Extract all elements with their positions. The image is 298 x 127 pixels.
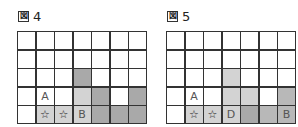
grid-cell <box>167 69 184 86</box>
cell-label: D <box>227 108 235 121</box>
star-icon: ☆ <box>40 108 50 121</box>
grid-cell <box>186 51 203 68</box>
cell-label: B <box>78 108 86 121</box>
grid-cell <box>55 69 72 86</box>
grid-cell <box>111 32 128 49</box>
star-icon: ☆ <box>189 108 199 121</box>
grid-cell <box>223 51 240 68</box>
grid: A☆☆DB <box>166 31 296 124</box>
grid-cell <box>241 32 258 49</box>
grid-cell <box>92 106 109 123</box>
grid-cell <box>18 69 35 86</box>
cell-a: A <box>37 88 54 105</box>
grid-cell <box>18 51 35 68</box>
grid-cell <box>111 88 128 105</box>
star-cell: ☆ <box>37 106 54 123</box>
grid-cell <box>92 51 109 68</box>
grid-cell <box>204 51 221 68</box>
grid-cell <box>18 88 35 105</box>
grid: A☆☆B <box>17 31 147 124</box>
grid-cell <box>223 88 240 105</box>
cell-b: B <box>278 106 295 123</box>
grid-cell <box>74 88 91 105</box>
grid-cell <box>167 51 184 68</box>
grid-cell <box>260 88 277 105</box>
grid-cell <box>260 69 277 86</box>
grid-cell <box>129 69 146 86</box>
grid-cell <box>92 88 109 105</box>
star-cell: ☆ <box>55 106 72 123</box>
figure-mark-icon: 図 <box>167 11 178 22</box>
grid-cell <box>223 32 240 49</box>
grid-cell <box>74 51 91 68</box>
grid-cell <box>241 69 258 86</box>
grid-cell <box>167 106 184 123</box>
grid-cell <box>186 32 203 49</box>
grid-cell <box>111 69 128 86</box>
grid-cell <box>111 51 128 68</box>
grid-cell <box>92 32 109 49</box>
star-cell: ☆ <box>204 106 221 123</box>
cell-label: A <box>41 90 49 103</box>
grid-cell <box>55 32 72 49</box>
grid-cell <box>186 69 203 86</box>
grid-cell <box>278 32 295 49</box>
grid-cell <box>92 69 109 86</box>
grid-cell <box>129 32 146 49</box>
star-icon: ☆ <box>59 108 69 121</box>
grid-cell <box>260 51 277 68</box>
grid-cell <box>18 106 35 123</box>
grid-cell <box>260 106 277 123</box>
cell-label: A <box>190 90 198 103</box>
figure-title: 図 5 <box>167 9 190 24</box>
grid-cell <box>74 32 91 49</box>
grid-cell <box>167 88 184 105</box>
cell-a: A <box>186 88 203 105</box>
grid-cell <box>74 69 91 86</box>
cell-d: D <box>223 106 240 123</box>
grid-cell <box>241 51 258 68</box>
grid-cell <box>18 32 35 49</box>
grid-cell <box>129 88 146 105</box>
grid-cell <box>37 69 54 86</box>
grid-cell <box>37 32 54 49</box>
grid-cell <box>278 69 295 86</box>
figure-number: 5 <box>182 9 190 24</box>
grid-cell <box>55 88 72 105</box>
star-cell: ☆ <box>186 106 203 123</box>
grid-cell <box>241 88 258 105</box>
grid-cell <box>167 32 184 49</box>
grid-cell <box>37 51 54 68</box>
figure-5: 図 5 A☆☆DB <box>149 0 298 127</box>
grid-cell <box>204 69 221 86</box>
figure-4: 図 4 A☆☆B <box>0 0 149 127</box>
grid-cell <box>55 51 72 68</box>
star-icon: ☆ <box>208 108 218 121</box>
grid-cell <box>260 32 277 49</box>
figure-title: 図 4 <box>18 9 41 24</box>
figure-mark-icon: 図 <box>18 11 29 22</box>
grid-cell <box>278 51 295 68</box>
grid-cell <box>204 88 221 105</box>
grid-cell <box>204 32 221 49</box>
grid-cell <box>278 88 295 105</box>
figure-number: 4 <box>33 9 41 24</box>
cell-label: B <box>283 108 291 121</box>
grid-cell <box>241 106 258 123</box>
grid-cell <box>129 106 146 123</box>
grid-cell <box>129 51 146 68</box>
grid-cell <box>223 69 240 86</box>
grid-cell <box>111 106 128 123</box>
cell-b: B <box>74 106 91 123</box>
